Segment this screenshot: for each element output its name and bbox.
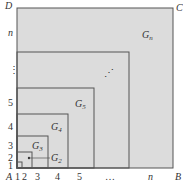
x-tick-ellipsis: … — [105, 171, 115, 182]
x-tick-3: 3 — [35, 171, 40, 182]
y-tick-2: 2 — [8, 152, 13, 163]
x-tick-n: n — [148, 171, 153, 182]
y-tick-4: 4 — [8, 121, 13, 132]
corner-label-C: C — [176, 2, 183, 13]
y-tick-n: n — [8, 27, 13, 38]
nested-squares-diagram: D C A B 1 2 3 4 5 … n 1 2 3 4 5 ⋮ n G2 G… — [0, 0, 183, 182]
corner-label-B: B — [175, 171, 181, 182]
x-tick-2: 2 — [22, 171, 27, 182]
x-tick-4: 4 — [55, 171, 60, 182]
corner-label-D: D — [4, 0, 13, 11]
x-tick-5: 5 — [77, 171, 82, 182]
y-tick-ellipsis: ⋮ — [9, 64, 19, 75]
y-tick-5: 5 — [8, 97, 13, 108]
y-tick-3: 3 — [8, 140, 13, 151]
corner-label-A: A — [5, 171, 13, 182]
interior-diagonal-ellipsis: ⋰ — [104, 67, 114, 78]
x-tick-1: 1 — [15, 171, 20, 182]
